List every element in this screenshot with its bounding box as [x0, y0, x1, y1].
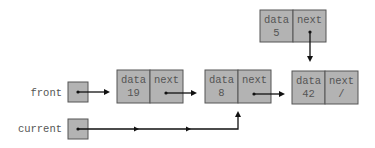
node-5-data-value: 5	[273, 27, 279, 39]
node-8: data 8 next	[205, 70, 271, 103]
node-19-next-label: next	[154, 74, 179, 86]
node-42-next-label: next	[329, 75, 354, 87]
node-19: data 19 next	[117, 70, 183, 103]
front-label: front	[30, 87, 62, 99]
node-8-data-label: data	[209, 74, 234, 86]
node-42-data-label: data	[296, 75, 321, 87]
node-8-next-label: next	[242, 74, 267, 86]
node-8-data-value: 8	[218, 87, 224, 99]
arrow-current-to-node-8	[76, 111, 241, 132]
current-label: current	[18, 123, 62, 135]
node-5-next-label: next	[297, 14, 322, 26]
node-19-data-value: 19	[127, 87, 140, 99]
node-5-data-label: data	[264, 14, 289, 26]
node-19-data-label: data	[121, 74, 146, 86]
null-pointer-slash: /	[338, 88, 344, 100]
node-5: data 5 next	[260, 10, 326, 42]
node-42: data 42 next /	[292, 71, 358, 104]
node-42-data-value: 42	[302, 88, 315, 100]
linked-list-diagram: front current data 19 next data 8 next d…	[0, 0, 375, 148]
